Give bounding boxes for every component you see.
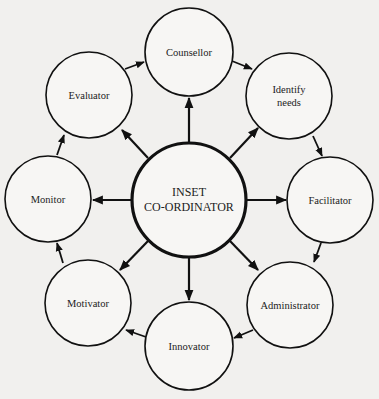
arrow-motivator-to-monitor [57,243,63,263]
arrow-center-to-identify-needs [230,128,258,158]
arrow-innovator-to-motivator [126,330,146,337]
node-inset-coordinator: INSET CO-ORDINATOR [132,143,246,257]
inset-coordinator-diagram: Counsellor Identify needs Facilitator Ad… [0,0,379,399]
node-label: Motivator [67,298,109,309]
center-label-line1: INSET [172,185,207,199]
node-innovator: Innovator [145,302,233,390]
node-label: Administrator [261,300,320,311]
arrow-evaluator-to-counsellor [125,62,144,69]
arrow-identify-needs-to-facilitator [313,136,322,156]
node-label: Innovator [169,341,210,352]
arrow-center-to-evaluator [122,130,148,158]
node-label-line2: needs [277,97,301,108]
node-counsellor: Counsellor [145,8,233,96]
node-identify-needs: Identify needs [246,53,332,139]
arrow-center-to-administrator [230,241,258,270]
center-label-line2: CO-ORDINATOR [144,200,234,214]
node-facilitator: Facilitator [287,157,373,243]
arrow-administrator-to-innovator [234,330,253,338]
arrow-center-to-motivator [120,241,148,270]
arrow-monitor-to-evaluator [57,135,64,155]
node-label: Counsellor [166,47,213,58]
node-label: Monitor [31,194,66,205]
node-label: Facilitator [308,195,352,206]
node-motivator: Motivator [45,260,131,346]
node-label: Identify [272,84,306,95]
arrow-facilitator-to-administrator [314,243,321,262]
arrow-counsellor-to-identify-needs [232,61,252,69]
node-monitor: Monitor [5,156,91,242]
node-label: Evaluator [69,90,110,101]
node-evaluator: Evaluator [46,52,132,138]
node-administrator: Administrator [247,262,333,348]
